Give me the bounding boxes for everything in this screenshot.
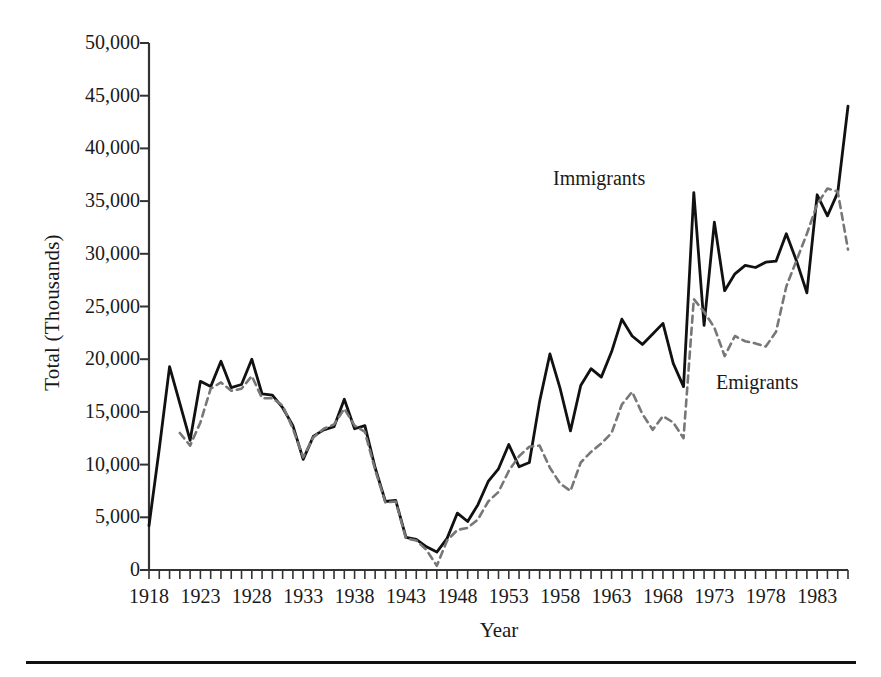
y-axis-ticks: [140, 43, 149, 570]
figure-bottom-rule: [26, 661, 856, 664]
x-axis-ticks: [149, 570, 848, 579]
data-series: [149, 106, 848, 566]
figure-container: Total (Thousands) 05,00010,00015,00020,0…: [0, 0, 881, 677]
series-line-immigrants: [149, 106, 848, 552]
series-line-emigrants: [180, 188, 848, 565]
axis-lines: [149, 43, 848, 570]
line-chart-plot: [0, 0, 881, 677]
